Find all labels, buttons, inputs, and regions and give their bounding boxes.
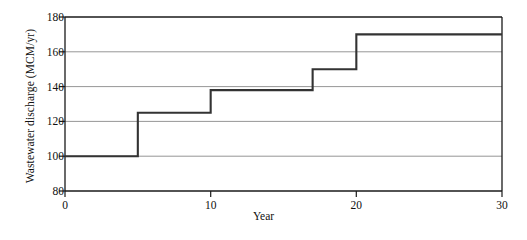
x-tick-marks — [65, 191, 502, 197]
data-series-wastewater-discharge — [65, 34, 502, 156]
x-axis-label: Year — [0, 210, 527, 222]
grid-lines — [65, 52, 502, 156]
axis-frame — [65, 17, 502, 191]
y-tick-marks — [59, 17, 65, 191]
chart-figure: Wastewater discharge (MCM/yr) 180 160 14… — [0, 0, 527, 240]
chart-plot-area — [0, 0, 527, 240]
